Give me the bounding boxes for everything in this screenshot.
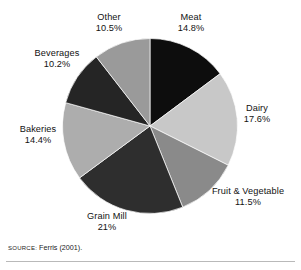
pie-label-beverages: Beverages 10.2%	[22, 48, 92, 71]
pie-label-fruit-vegetable: Fruit & Vegetable 11.5%	[200, 186, 296, 209]
pie-label-grain-mill-value: 21%	[76, 222, 138, 233]
pie-label-dairy: Dairy 17.6%	[233, 103, 281, 126]
pie-label-meat-value: 14.8%	[168, 23, 214, 34]
pie-label-beverages-value: 10.2%	[22, 59, 92, 70]
source-note: SOURCE: Ferris (2001).	[8, 243, 82, 253]
pie-label-other: Other 10.5%	[82, 12, 136, 35]
pie-label-meat: Meat 14.8%	[168, 12, 214, 35]
pie-label-bakeries-value: 14.4%	[8, 135, 68, 146]
pie-label-bakeries: Bakeries 14.4%	[8, 124, 68, 147]
pie-label-grain-mill: Grain Mill 21%	[76, 211, 138, 234]
pie-label-other-name: Other	[82, 12, 136, 23]
pie-label-fruit-vegetable-name: Fruit & Vegetable	[200, 186, 296, 197]
pie-label-beverages-name: Beverages	[22, 48, 92, 59]
pie-label-other-value: 10.5%	[82, 23, 136, 34]
pie-label-dairy-name: Dairy	[233, 103, 281, 114]
pie-chart-figure: Other 10.5% Meat 14.8% Beverages 10.2% D…	[0, 0, 301, 270]
source-note-text: Ferris (2001).	[39, 243, 82, 252]
pie-label-meat-name: Meat	[168, 12, 214, 23]
pie-label-bakeries-name: Bakeries	[8, 124, 68, 135]
pie-label-dairy-value: 17.6%	[233, 114, 281, 125]
pie-label-grain-mill-name: Grain Mill	[76, 211, 138, 222]
source-note-label: SOURCE:	[8, 245, 37, 251]
bottom-divider	[6, 261, 295, 262]
pie-label-fruit-vegetable-value: 11.5%	[200, 197, 296, 208]
